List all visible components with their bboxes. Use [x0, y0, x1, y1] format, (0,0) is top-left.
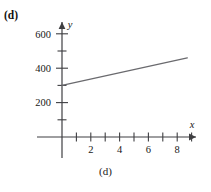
- x-axis-arrow-icon: [189, 134, 196, 141]
- x-axis-label: x: [189, 119, 195, 130]
- figure-container: (d): [0, 0, 211, 192]
- figure-caption: (d): [0, 165, 211, 177]
- y-axis-arrow-icon: [59, 22, 66, 29]
- x-tick-labels: 2 4 6 8: [88, 144, 180, 155]
- y-tick-label: 400: [35, 63, 51, 74]
- y-tick-labels: 200 400 600: [35, 29, 51, 109]
- x-axis: [37, 134, 196, 141]
- y-axis: [59, 22, 66, 158]
- y-axis-label: y: [67, 19, 73, 30]
- x-tick-label: 2: [88, 144, 93, 155]
- x-tick-label: 6: [146, 144, 151, 155]
- series-segment: [62, 58, 187, 86]
- y-tick-label: 200: [35, 97, 51, 108]
- x-tick-label: 8: [175, 144, 180, 155]
- data-series-line: [62, 58, 187, 86]
- line-chart: 2 4 6 8 200 400 600 x y: [0, 0, 211, 192]
- y-tick-label: 600: [35, 29, 51, 40]
- x-tick-label: 4: [117, 144, 123, 155]
